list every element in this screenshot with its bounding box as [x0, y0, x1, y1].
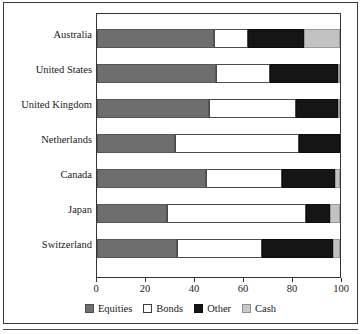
stacked-bar [97, 134, 340, 153]
bar-row [97, 134, 340, 153]
bar-segment-other [248, 29, 304, 48]
bar-segment-other [270, 64, 338, 83]
bar-row [97, 64, 340, 83]
x-axis-tick [145, 278, 146, 282]
legend-swatch-bonds-icon [143, 304, 152, 313]
bar-segment-other [296, 99, 337, 118]
bar-segment-cash [335, 169, 340, 188]
x-axis-tick-label: 40 [189, 283, 200, 294]
y-axis-label: United States [0, 64, 92, 76]
bar-segment-bonds [206, 169, 281, 188]
bar-segment-bonds [214, 29, 248, 48]
bar-segment-equities [97, 64, 216, 83]
stacked-bar [97, 204, 340, 223]
bar-segment-cash [333, 239, 340, 258]
stacked-bar [97, 64, 340, 83]
legend-label: Other [207, 303, 231, 314]
bar-segment-other [306, 204, 330, 223]
bar-row [97, 239, 340, 258]
y-axis-label: Switzerland [0, 239, 92, 251]
bar-segment-bonds [216, 64, 269, 83]
bar-segment-cash [304, 29, 340, 48]
legend-label: Bonds [156, 303, 183, 314]
bar-segment-bonds [167, 204, 306, 223]
bar-segment-bonds [209, 99, 296, 118]
legend-swatch-other-icon [194, 304, 203, 313]
bars-container [97, 14, 340, 277]
stacked-bar [97, 99, 340, 118]
chart-legend: Equities Bonds Other Cash [0, 303, 361, 314]
bar-segment-other [282, 169, 335, 188]
legend-swatch-cash-icon [242, 304, 251, 313]
legend-label: Equities [98, 303, 132, 314]
bar-row [97, 99, 340, 118]
stacked-bar [97, 169, 340, 188]
figure-bottom-rule [3, 329, 358, 330]
y-axis-label: Netherlands [0, 134, 92, 146]
bar-segment-bonds [175, 134, 299, 153]
plot-area [96, 13, 341, 278]
x-axis-tick-label: 20 [140, 283, 151, 294]
stacked-bar [97, 239, 340, 258]
x-axis-tick [96, 278, 97, 282]
legend-label: Cash [255, 303, 276, 314]
y-axis-label: Australia [0, 29, 92, 41]
y-axis-label: United Kingdom [0, 99, 92, 111]
stacked-bar [97, 29, 340, 48]
bar-row [97, 29, 340, 48]
bar-segment-cash [330, 204, 340, 223]
legend-item: Cash [242, 303, 276, 314]
x-axis-tick [292, 278, 293, 282]
legend-swatch-equities-icon [85, 304, 94, 313]
bar-segment-equities [97, 29, 214, 48]
bar-segment-equities [97, 169, 206, 188]
x-axis-tick-label: 0 [93, 283, 98, 294]
y-axis-label: Canada [0, 169, 92, 181]
bar-segment-equities [97, 204, 167, 223]
legend-item: Bonds [143, 303, 183, 314]
bar-row [97, 204, 340, 223]
bar-row [97, 169, 340, 188]
legend-item: Other [194, 303, 231, 314]
bar-segment-bonds [177, 239, 262, 258]
x-axis-tick [243, 278, 244, 282]
x-axis-tick [341, 278, 342, 282]
bar-segment-cash [338, 64, 340, 83]
bar-segment-equities [97, 99, 209, 118]
legend-item: Equities [85, 303, 132, 314]
x-axis-tick-label: 100 [333, 283, 349, 294]
bar-segment-other [262, 239, 332, 258]
bar-segment-other [299, 134, 340, 153]
x-axis-tick-label: 60 [238, 283, 249, 294]
x-axis-tick-labels: 020406080100 [96, 283, 341, 299]
y-axis-label: Japan [0, 204, 92, 216]
chart-figure: Australia United States United Kingdom N… [0, 0, 361, 334]
bar-segment-equities [97, 239, 177, 258]
x-axis-tick [194, 278, 195, 282]
x-axis-tick-label: 80 [287, 283, 298, 294]
bar-segment-cash [338, 99, 340, 118]
bar-segment-equities [97, 134, 175, 153]
